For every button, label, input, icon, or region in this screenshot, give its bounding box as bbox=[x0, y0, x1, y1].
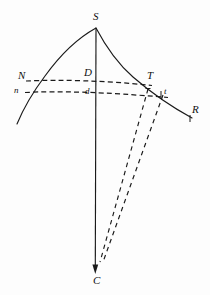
vertical-axis-line bbox=[95, 28, 96, 268]
label-point-D: D bbox=[84, 67, 92, 78]
curve-right-branch bbox=[96, 28, 192, 118]
label-point-C: C bbox=[93, 275, 100, 286]
label-point-R: R bbox=[192, 104, 199, 115]
label-point-d: d bbox=[85, 87, 90, 96]
label-point-t: t bbox=[164, 87, 167, 96]
diagram-canvas: S N n D d T t R C bbox=[0, 0, 210, 295]
ray-T-to-C bbox=[100, 89, 148, 262]
label-point-S: S bbox=[93, 11, 99, 22]
label-point-N: N bbox=[18, 70, 25, 81]
upper-chord-NDT bbox=[26, 80, 152, 85]
axis-arrowhead-icon bbox=[92, 265, 98, 275]
ray-t-to-C bbox=[103, 95, 163, 262]
label-point-n: n bbox=[14, 86, 19, 95]
label-point-T: T bbox=[147, 70, 153, 81]
diagram-svg bbox=[0, 0, 210, 295]
